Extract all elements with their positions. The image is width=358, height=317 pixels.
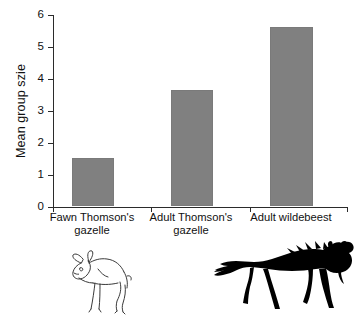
y-tick-label-4: 4 xyxy=(28,73,44,85)
y-tick-2 xyxy=(48,143,53,144)
bar-adult-thomsons-gazelle xyxy=(171,90,213,207)
bar-adult-wildebeest xyxy=(270,27,313,206)
y-tick-label-1: 1 xyxy=(28,169,44,181)
x-category-label-line-2: gazelle xyxy=(132,224,250,237)
y-axis-label: Mean group szie xyxy=(14,41,28,181)
bar-chart-figure: Mean group szie 0 1 2 3 4 5 6 Fawn Thoms… xyxy=(0,0,358,317)
y-tick-label-2: 2 xyxy=(28,137,44,149)
x-category-label-line-1: Adult wildebeest xyxy=(232,211,350,224)
y-tick-6 xyxy=(48,15,53,16)
wildebeest-silhouette xyxy=(212,240,358,317)
y-tick-5 xyxy=(48,47,53,48)
y-axis-line xyxy=(53,15,54,207)
x-axis-line xyxy=(53,207,348,208)
y-tick-label-6: 6 xyxy=(28,9,44,21)
y-tick-3 xyxy=(48,111,53,112)
y-tick-4 xyxy=(48,79,53,80)
y-tick-1 xyxy=(48,175,53,176)
x-category-label-adult-wildebeest: Adult wildebeest xyxy=(232,211,350,224)
bar-fawn-thomsons-gazelle xyxy=(72,158,114,207)
y-tick-label-3: 3 xyxy=(28,105,44,117)
y-tick-label-5: 5 xyxy=(28,41,44,53)
gazelle-fawn-line-drawing xyxy=(68,249,146,315)
